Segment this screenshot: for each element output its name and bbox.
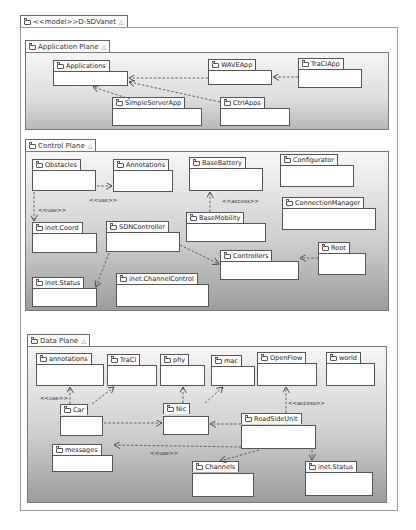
dep-nic-mac	[205, 387, 223, 403]
dep-sdncontroller-controllers	[180, 245, 219, 264]
dep-ctrlapps-applications	[129, 82, 220, 102]
dep-roadsideunit-channels	[220, 450, 259, 461]
dep-car-traci	[92, 387, 114, 404]
dep-sdncontroller-inetstatus	[96, 253, 109, 287]
dep-roadsideunit-messages	[114, 445, 241, 447]
dep-simpleserverapp-applications	[93, 87, 130, 99]
dependency-arrows	[0, 0, 416, 530]
